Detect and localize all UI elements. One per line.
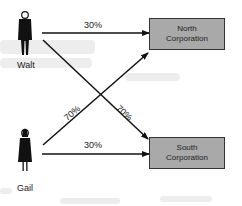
south-corporation-box: South Corporation	[149, 137, 225, 169]
south-corporation-line2: Corporation	[166, 153, 208, 163]
person-label-walt: Walt	[17, 60, 35, 70]
gail-south-percent: 30%	[84, 140, 102, 150]
north-corporation-line2: Corporation	[166, 34, 208, 44]
person-label-gail: Gail	[17, 183, 33, 193]
south-corporation-line1: South	[177, 143, 198, 153]
woman-icon	[18, 129, 32, 172]
walt-north-percent: 30%	[84, 20, 102, 30]
man-icon	[18, 12, 32, 55]
north-corporation-line1: North	[177, 24, 197, 34]
north-corporation-box: North Corporation	[149, 18, 225, 50]
